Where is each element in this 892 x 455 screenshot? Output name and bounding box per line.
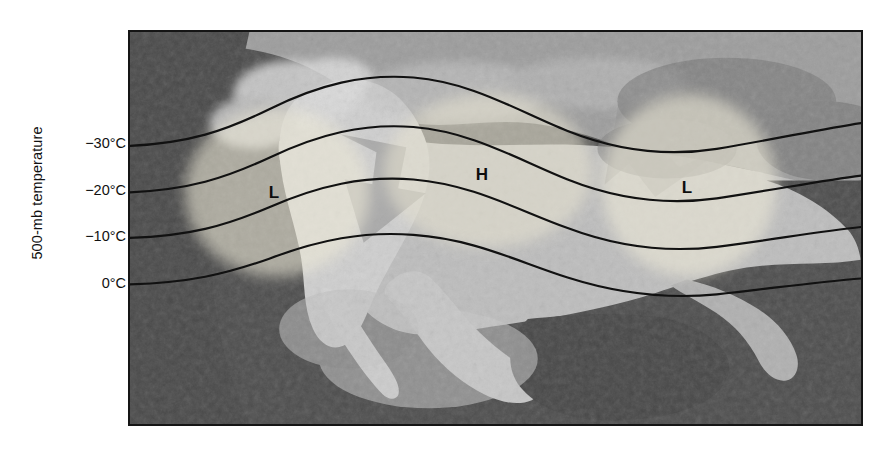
figure-root: 500-mb temperature −30°C−20°C−10°C0°C — [0, 0, 892, 455]
pressure-label-high-center: H — [476, 166, 488, 183]
pressure-label-low-east: L — [682, 179, 692, 196]
y-tick-label: −20°C — [40, 182, 126, 198]
weather-map-svg — [130, 32, 861, 424]
y-tick-label: −10°C — [40, 228, 126, 244]
y-axis-tick-labels: −30°C−20°C−10°C0°C — [34, 0, 126, 455]
y-tick-label: 0°C — [40, 275, 126, 291]
y-tick-label: −30°C — [40, 135, 126, 151]
map-frame: LHL — [128, 30, 863, 426]
pressure-label-low-west: L — [269, 184, 279, 201]
